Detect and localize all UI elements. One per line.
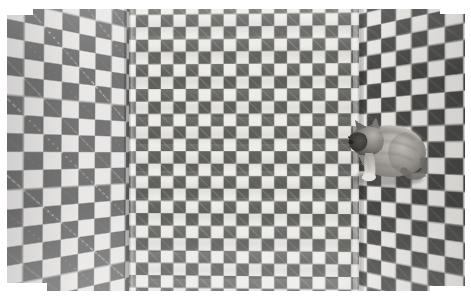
left-checkered-panel: Left checkered panel [7,9,129,291]
cat-nose [348,140,353,144]
print-margin-bottom [0,291,471,301]
checkerboard-pattern-left [7,9,129,291]
cat: Cat [335,109,427,187]
cat-paw [362,173,376,181]
image-title: Grey tabby cat on a checkerboard-pattern… [0,0,1,1]
image-caption: A grey tabby cat sits against a large bl… [0,0,1,1]
screenshot-canvas: Grey tabby cat on a checkerboard-pattern… [0,0,471,301]
photograph: Left checkered panel Central checkered p… [7,9,465,291]
print-margin-right [465,0,471,301]
print-margin-left [0,0,7,301]
print-margin-top [0,0,471,9]
checkerboard-pattern-center [129,9,359,291]
center-checkered-panel: Central checkered panel [129,9,359,291]
